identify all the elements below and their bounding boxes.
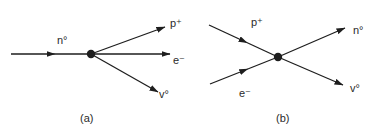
- feynman-diagram: n°p⁺e⁻v°(a)p⁺e⁻n°v°(b): [0, 0, 371, 132]
- particle-label-p+: p⁺: [170, 17, 182, 29]
- outgoing-line-p+: [91, 27, 165, 54]
- incoming-line-segment-e-: [244, 57, 278, 71]
- panel-caption: (a): [80, 112, 93, 124]
- particle-label-e-: e⁻: [173, 54, 185, 66]
- particle-label-n0: n°: [57, 34, 68, 46]
- particle-label-e-: e⁻: [239, 87, 251, 99]
- panel-b: p⁺e⁻n°v°(b): [209, 16, 364, 124]
- particle-label-v0: v°: [159, 88, 169, 100]
- panel-caption: (b): [276, 112, 289, 124]
- vertex-dot: [274, 53, 282, 61]
- incoming-line-e-: [210, 71, 244, 85]
- particle-label-n0: n°: [353, 24, 364, 36]
- outgoing-line-v0: [278, 57, 343, 85]
- incoming-line-segment-p+: [244, 41, 279, 57]
- panel-a: n°p⁺e⁻v°(a): [11, 17, 185, 124]
- outgoing-line-v0: [91, 54, 158, 92]
- particle-label-p+: p⁺: [251, 16, 263, 28]
- incoming-line-p+: [209, 25, 244, 41]
- outgoing-line-n0: [278, 28, 345, 57]
- particle-label-v0: v°: [350, 82, 360, 94]
- vertex-dot: [87, 50, 95, 58]
